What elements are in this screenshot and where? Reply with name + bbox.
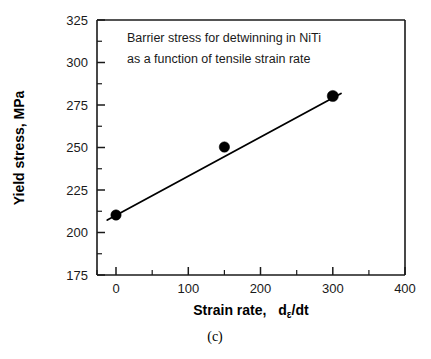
figure-caption: (c) [207,329,223,345]
data-point [327,90,338,101]
annotation-line-2: as a function of tensile strain rate [127,52,310,66]
x-tick-label: 400 [394,281,416,296]
y-tick-label: 225 [66,183,88,198]
y-tick-label: 300 [66,55,88,70]
x-tick-label: 200 [250,281,272,296]
y-tick-label: 200 [66,225,88,240]
x-axis-title-symbol-suffix: /dt [292,302,309,318]
y-tick-label: 325 [66,13,88,28]
y-tick-label: 275 [66,98,88,113]
y-axis-title-text: Yield stress, MPa [11,90,27,205]
y-tick-label: 175 [66,268,88,283]
data-point [219,142,229,152]
y-axis-title: Yield stress, MPa [11,90,27,205]
x-tick-label: 100 [177,281,199,296]
caption-text: (c) [207,329,223,345]
data-point [111,210,121,220]
x-tick-label: 0 [112,281,119,296]
chart-figure: 175 200 225 250 275 300 325 0 100 [0,0,431,359]
x-axis-title-symbol-prefix: d [278,302,287,318]
x-axis-title-main: Strain rate, [193,302,266,318]
y-tick-label: 250 [66,140,88,155]
annotation-line-1: Barrier stress for detwinning in NiTi [127,31,321,45]
x-axis-title: Strain rate, dε/dt [193,302,309,320]
figure-page: 175 200 225 250 275 300 325 0 100 [0,0,431,359]
x-tick-label: 300 [322,281,344,296]
svg-text:Strain rate, dε/dt: Strain rate, dε/dt [193,302,309,320]
